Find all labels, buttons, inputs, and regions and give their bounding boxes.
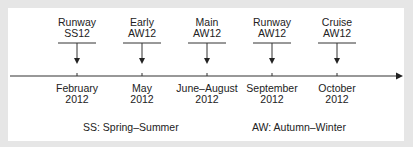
down-arrow-icon [139, 58, 145, 64]
legend-ss: SS: Spring–Summer [83, 121, 179, 133]
down-arrow-icon [269, 58, 275, 64]
event-marker-3 [188, 43, 226, 76]
down-arrow-icon [204, 58, 210, 64]
event-label-1: Runway SS12 [42, 17, 112, 39]
event-label-5: Cruise AW12 [302, 17, 372, 39]
axis-arrowhead-icon [396, 73, 403, 80]
event-marker-5 [318, 43, 356, 76]
down-arrow-icon [334, 58, 340, 64]
event-label-3: Main AW12 [172, 17, 242, 39]
legend-aw: AW: Autumn–Winter [252, 121, 346, 133]
event-marker-2 [123, 43, 161, 76]
event-marker-1 [58, 43, 96, 76]
event-season: SS12 [42, 28, 112, 39]
event-season: AW12 [107, 28, 177, 39]
event-marker-4 [253, 43, 291, 76]
date-year: 2012 [297, 94, 377, 105]
event-label-4: Runway AW12 [237, 17, 307, 39]
down-arrow-icon [74, 58, 80, 64]
event-label-2: Early AW12 [107, 17, 177, 39]
event-season: AW12 [172, 28, 242, 39]
event-season: AW12 [302, 28, 372, 39]
date-label-5: October 2012 [297, 83, 377, 105]
event-season: AW12 [237, 28, 307, 39]
